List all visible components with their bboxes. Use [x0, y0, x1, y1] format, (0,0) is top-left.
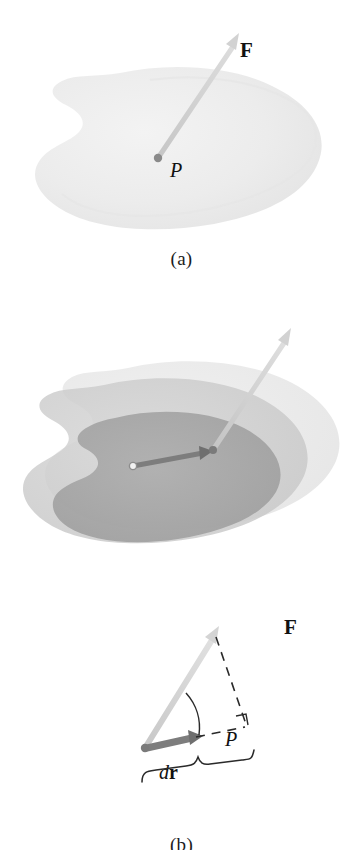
panel-c: F θ dr |F|cosθ (c)	[0, 585, 363, 850]
panel-c-graphic	[0, 585, 363, 850]
point-label-a: P	[170, 160, 182, 180]
panel-b: F P dr (b)	[0, 285, 363, 585]
application-point-dot-a	[154, 154, 162, 162]
angle-arc-c	[186, 693, 199, 735]
panel-a-graphic	[0, 0, 363, 290]
force-vector-c	[145, 640, 212, 748]
force-arrowhead-a	[226, 33, 239, 50]
origin-dot-c	[141, 744, 149, 752]
dashed-base-c	[196, 727, 245, 737]
displacement-arrowhead-c	[188, 730, 203, 745]
work-force-figure: F P (a)	[0, 0, 363, 850]
right-angle-mark-c	[236, 714, 248, 725]
projection-brace-c	[142, 750, 254, 782]
caption-a: (a)	[0, 248, 363, 270]
force-arrowhead-b	[278, 328, 291, 346]
dashed-perpendicular-c	[216, 637, 247, 727]
panel-a: F P (a)	[0, 0, 363, 290]
application-point-dot-b	[209, 446, 217, 454]
displacement-tail-dot-b	[129, 462, 136, 469]
panel-b-graphic	[0, 285, 363, 585]
force-label-a: F	[240, 40, 253, 61]
